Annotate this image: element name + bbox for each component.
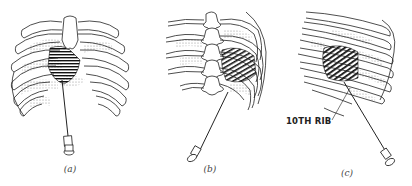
rib-cage-anterior-illustration: [0, 0, 140, 186]
needle-icon: [62, 80, 68, 136]
rib-cage-posterior-illustration: [140, 0, 275, 186]
hatched-region-icon: [222, 48, 257, 82]
caption-b: (b): [195, 164, 225, 174]
needle-icon: [200, 92, 228, 150]
caption-c: (c): [332, 168, 362, 178]
rib-cage-lateral-illustration: [272, 0, 412, 186]
tenth-rib-label: 10TH RIB: [286, 116, 332, 126]
caption-a: (a): [55, 164, 85, 174]
needle-icon: [344, 82, 386, 152]
panel-c: 10TH RIB (c): [272, 0, 412, 186]
panel-b: (b): [140, 0, 275, 186]
panel-a: (a): [0, 0, 140, 186]
